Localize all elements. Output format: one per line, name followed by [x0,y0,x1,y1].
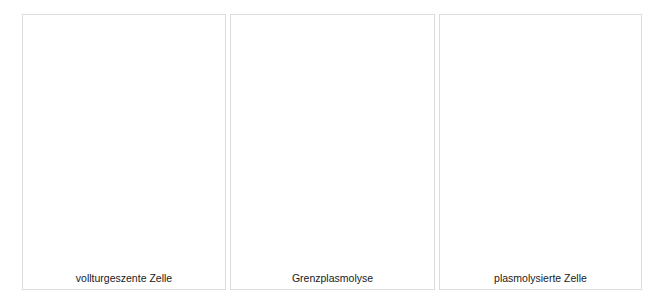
cell-illustration-area [237,21,428,267]
panel-caption: vollturgeszente Zelle [23,271,225,285]
panel-plasmolysierte-zelle: plasmolysierte Zelle [439,14,642,290]
cell-illustration-area [446,21,635,267]
panel-grenzplasmolyse: Grenzplasmolyse [230,14,435,290]
cell-illustration-area [29,21,219,267]
panel-caption: Grenzplasmolyse [231,271,434,285]
panel-vollturgeszente-zelle: vollturgeszente Zelle [22,14,226,290]
panel-caption: plasmolysierte Zelle [440,271,641,285]
